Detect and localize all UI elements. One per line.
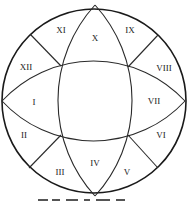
region-label-xi: XI bbox=[56, 25, 66, 35]
caption-sliver bbox=[38, 199, 125, 201]
region-label-ii: II bbox=[21, 130, 27, 140]
divider-viii-ix bbox=[128, 35, 158, 67]
region-label-iii: III bbox=[56, 167, 65, 177]
divider-ii-iii bbox=[29, 135, 61, 168]
divider-xi-xii bbox=[30, 34, 61, 66]
zodiac-circle-diagram: IIIIIIIVVVIVIIVIIIIXXXIXII bbox=[0, 0, 193, 201]
region-label-x: X bbox=[92, 33, 99, 43]
divider-v-vi bbox=[128, 135, 158, 168]
region-label-v: V bbox=[124, 167, 131, 177]
region-label-viii: VIII bbox=[156, 63, 172, 73]
region-label-xii: XII bbox=[20, 62, 33, 72]
region-label-i: I bbox=[33, 97, 36, 107]
region-label-vii: VII bbox=[148, 96, 161, 106]
region-label-ix: IX bbox=[125, 25, 135, 35]
region-label-vi: VI bbox=[156, 130, 166, 140]
region-label-iv: IV bbox=[90, 158, 100, 168]
